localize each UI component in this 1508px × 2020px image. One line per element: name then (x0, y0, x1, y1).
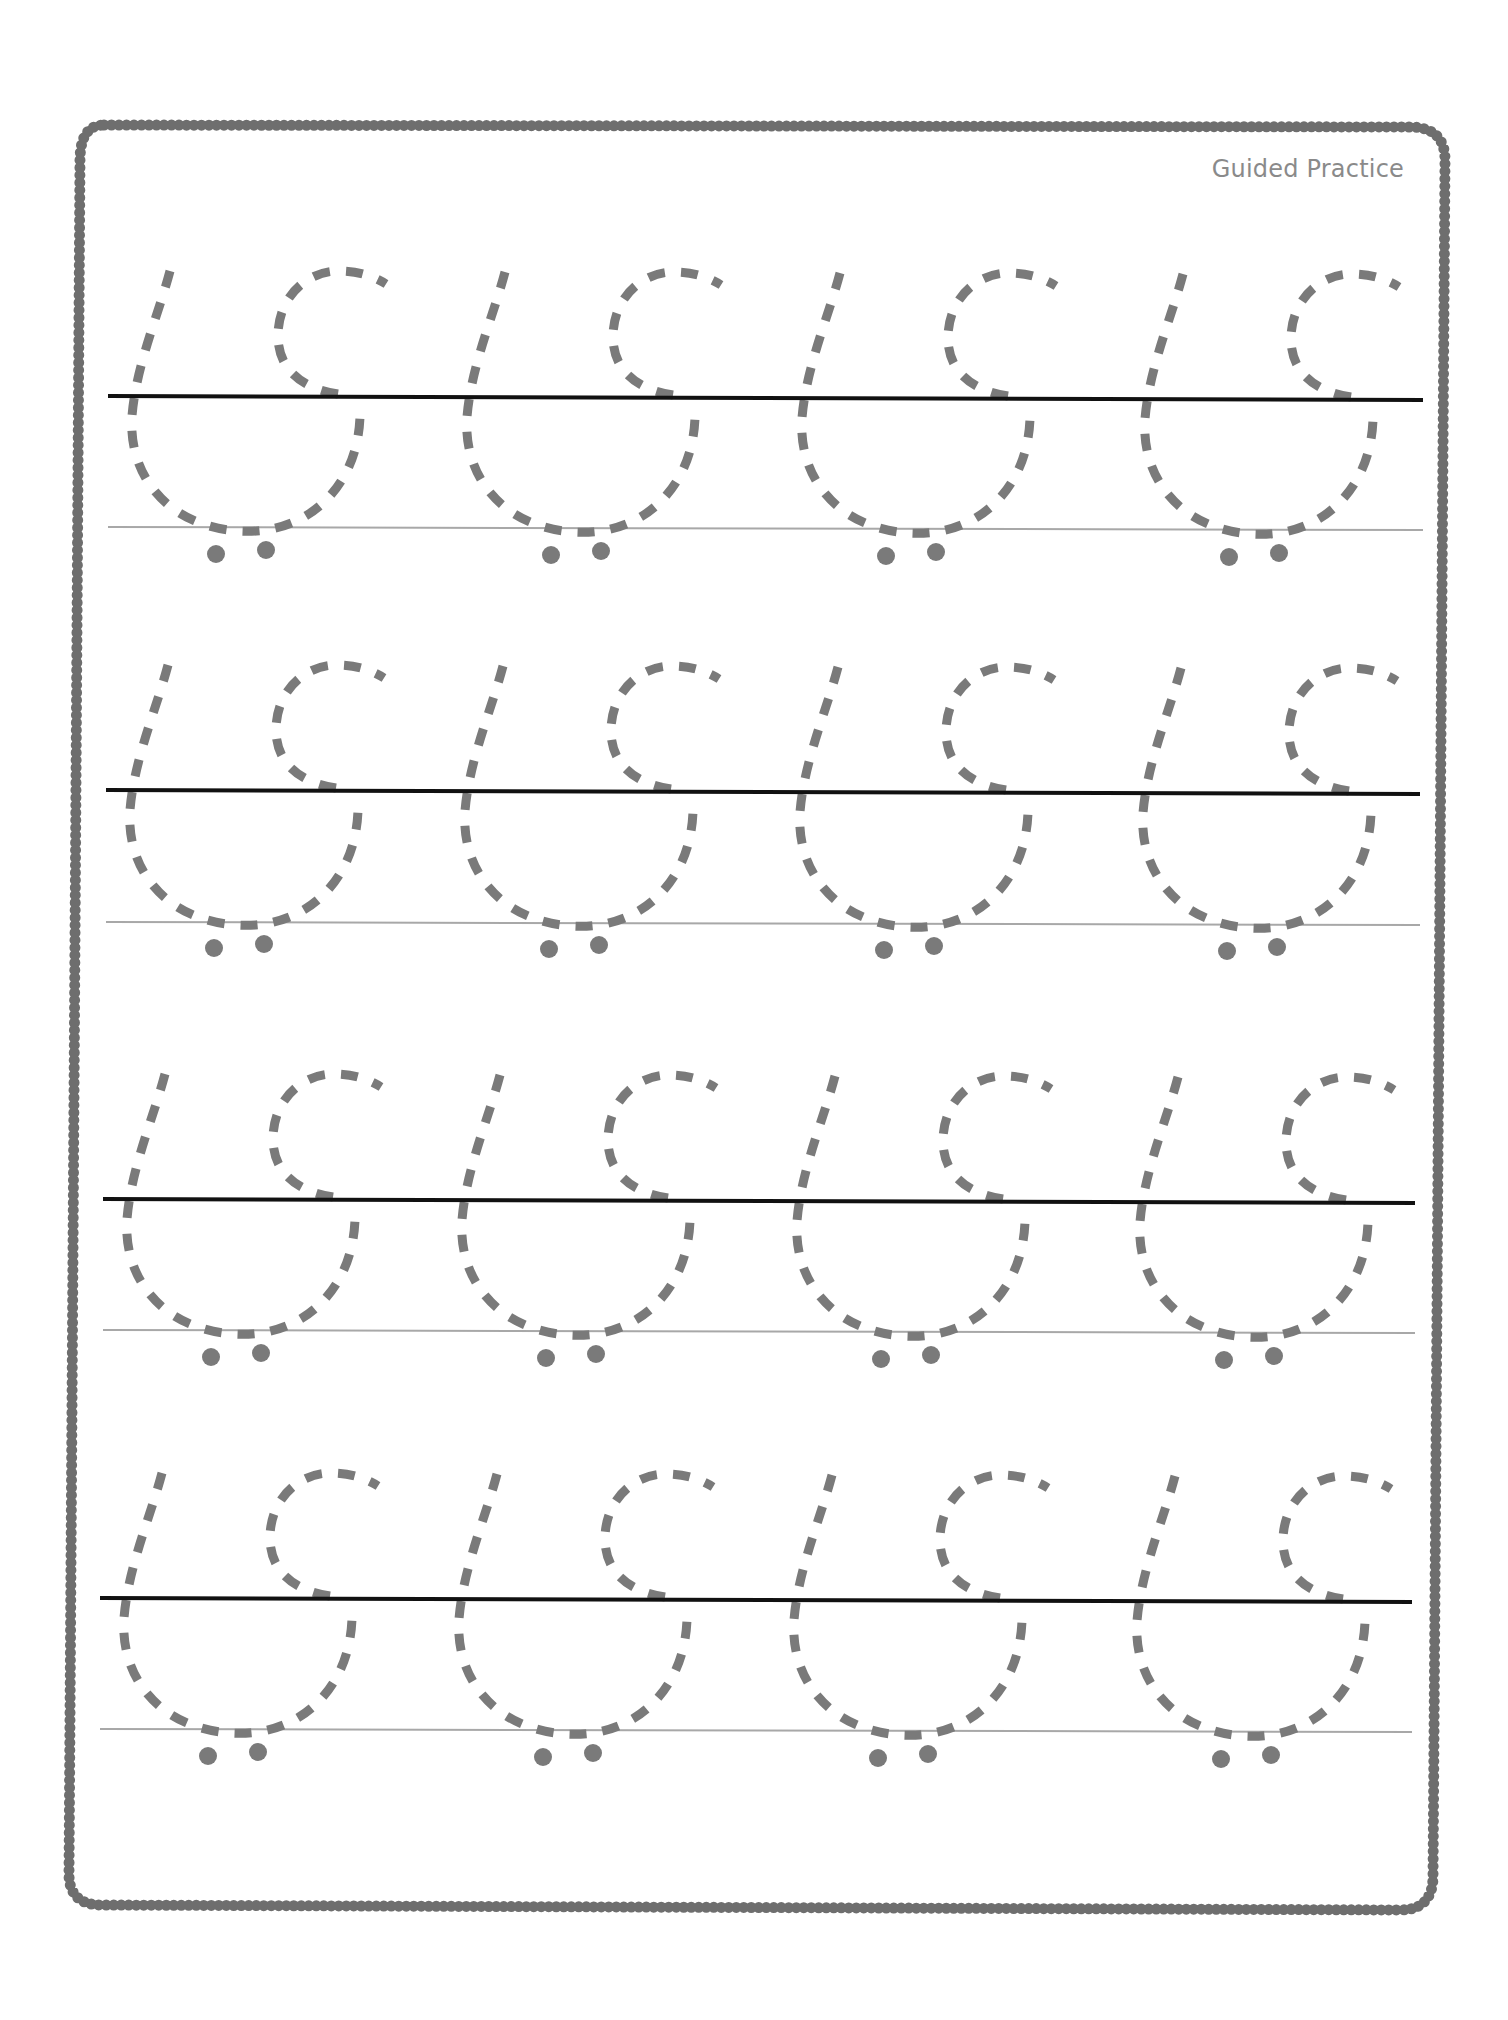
midline (106, 790, 1420, 794)
worksheet-canvas (0, 0, 1508, 2020)
midline (103, 1199, 1415, 1203)
scalloped-border (69, 125, 1445, 1910)
tracing-glyph (124, 1473, 378, 1765)
tracing-glyph (797, 1076, 1051, 1368)
tracing-glyph (800, 667, 1054, 959)
midline (108, 396, 1423, 400)
tracing-glyph (462, 1075, 716, 1367)
midline (100, 1598, 1412, 1602)
practice-row-1 (108, 271, 1423, 566)
tracing-glyph (467, 272, 721, 564)
practice-row-3 (103, 1074, 1415, 1369)
practice-row-4 (100, 1473, 1412, 1768)
tracing-glyph (459, 1474, 713, 1766)
tracing-glyph (132, 271, 386, 563)
tracing-glyph (465, 666, 719, 958)
worksheet-page: Guided Practice (0, 0, 1508, 2020)
tracing-glyph (130, 665, 384, 957)
tracing-glyph (794, 1475, 1048, 1767)
tracing-glyph (127, 1074, 381, 1366)
tracing-glyph (1140, 1077, 1394, 1369)
practice-rows (100, 271, 1423, 1768)
practice-row-2 (106, 665, 1420, 960)
tracing-glyph (802, 273, 1056, 565)
tracing-glyph (1137, 1476, 1391, 1768)
tracing-glyph (1143, 668, 1397, 960)
tracing-glyph (1145, 274, 1399, 566)
